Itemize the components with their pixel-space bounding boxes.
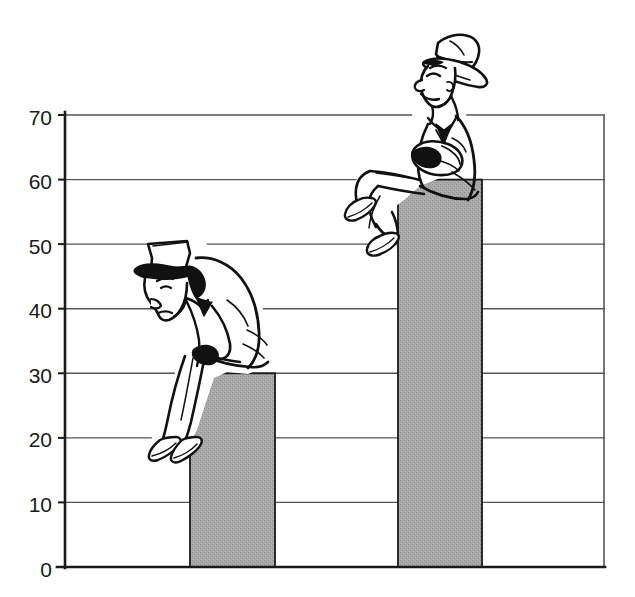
ytick-label-20: 20 [29,428,52,451]
ytick-label-10: 10 [29,493,52,516]
bar-value-60[interactable] [398,180,482,567]
bar-chart-svg: 70 60 50 40 30 20 10 0 [0,0,635,597]
ytick-label-70: 70 [29,106,52,129]
ytick-label-0: 0 [40,558,52,581]
ytick-label-40: 40 [29,299,52,322]
ytick-label-60: 60 [29,170,52,193]
ytick-label-50: 50 [29,235,52,258]
chart-figure: 70 60 50 40 30 20 10 0 [0,0,635,597]
ytick-label-30: 30 [29,364,52,387]
chart-background [0,0,635,597]
